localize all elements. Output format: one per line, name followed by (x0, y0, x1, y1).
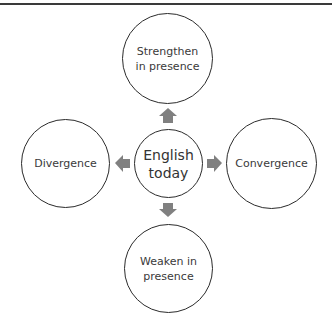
node-divergence: Divergence (21, 119, 110, 208)
node-label: Divergence (34, 156, 97, 171)
node-label: English (143, 146, 194, 164)
node-english-today: English today (134, 129, 203, 198)
node-weaken-in-presence: Weaken in presence (124, 224, 213, 313)
node-convergence: Convergence (226, 118, 317, 209)
node-label: today (143, 164, 194, 182)
node-label: Strengthen (136, 44, 200, 59)
node-label: in presence (136, 59, 200, 74)
arrow-up-icon (159, 108, 177, 123)
node-label: Convergence (235, 156, 308, 171)
arrow-down-icon (159, 203, 177, 217)
node-strengthen-in-presence: Strengthen in presence (122, 13, 213, 104)
arrow-left-icon (115, 155, 130, 172)
arrow-right-icon (207, 155, 222, 172)
node-label: presence (140, 269, 197, 284)
node-label: Weaken in (140, 254, 197, 269)
